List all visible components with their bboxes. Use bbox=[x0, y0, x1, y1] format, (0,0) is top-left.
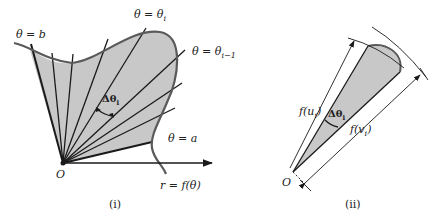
label-f-ui: f(ui) bbox=[298, 105, 321, 120]
label-theta-i-minus-1: θ = θi−1 bbox=[192, 45, 236, 60]
dashed-extension bbox=[293, 172, 303, 182]
figure-ii: f(ui) Δθi f(vi) O (ii) bbox=[282, 27, 428, 211]
label-theta-a: θ = a bbox=[168, 132, 197, 145]
label-origin: O bbox=[56, 168, 65, 181]
label-origin-ii: O bbox=[282, 176, 291, 189]
caption-i: (i) bbox=[109, 198, 121, 211]
label-theta-b: θ = b bbox=[16, 28, 46, 41]
polar-area-diagram: θ = b θ = θi θ = θi−1 Δθi θ = a O r = f(… bbox=[0, 0, 438, 219]
origin-point bbox=[61, 161, 66, 166]
figure-i: θ = b θ = θi θ = θi−1 Δθi θ = a O r = f(… bbox=[14, 8, 236, 211]
caption-ii: (ii) bbox=[345, 198, 361, 211]
label-theta-i: θ = θi bbox=[134, 8, 166, 23]
label-curve: r = f(θ) bbox=[160, 179, 201, 192]
label-f-vi: f(vi) bbox=[349, 123, 371, 138]
